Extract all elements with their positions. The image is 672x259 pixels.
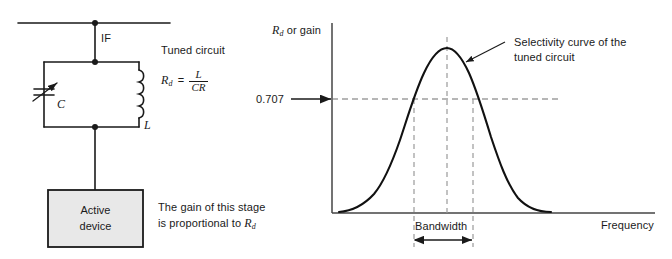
y-axis-label: Rd or gain xyxy=(272,22,321,40)
gain-note-line2-prefix: is proportional to xyxy=(158,217,244,229)
selectivity-curve xyxy=(339,48,551,212)
if-label: IF xyxy=(101,31,111,46)
tuned-circuit-label: Tuned circuit xyxy=(161,43,225,58)
capacitor-label: C xyxy=(57,96,65,112)
x-axis-label: Frequency xyxy=(601,218,654,233)
selectivity-callout-leader xyxy=(466,42,505,62)
selectivity-curve-callout-line1: Selectivity curve of the xyxy=(514,36,626,48)
active-device-label-line1: Active xyxy=(81,204,111,216)
rd-formula-equals: = xyxy=(176,74,187,86)
inductor-coil xyxy=(139,70,144,118)
figure-root: IF Tuned circuit Rd = L CR C L Active de… xyxy=(0,0,672,259)
node-dot-tank-bottom xyxy=(92,124,98,130)
active-device-label: Active device xyxy=(48,203,143,235)
rd-formula-denominator: CR xyxy=(189,82,207,94)
node-dot-rail xyxy=(92,20,98,26)
rd-formula-lhs-subscript: d xyxy=(168,79,172,88)
half-power-tick-label: 0.707 xyxy=(256,92,284,107)
node-dot-tank-top xyxy=(92,59,98,65)
gain-note: The gain of this stage is proportional t… xyxy=(158,200,265,233)
rd-formula-fraction: L CR xyxy=(189,69,207,93)
selectivity-curve-callout-line2: tuned circuit xyxy=(514,51,575,63)
selectivity-curve-callout: Selectivity curve of the tuned circuit xyxy=(514,35,626,65)
gain-note-line2-var: R xyxy=(244,216,251,230)
rd-formula: Rd = L CR xyxy=(161,69,208,93)
bandwidth-label: Bandwidth xyxy=(415,219,467,234)
rd-formula-numerator: L xyxy=(189,69,207,82)
active-device-label-line2: device xyxy=(80,220,112,232)
capacitor-variability-arrow xyxy=(33,83,57,101)
y-axis-label-suffix: or gain xyxy=(284,24,322,36)
inductor-label: L xyxy=(144,117,151,133)
gain-note-line2-var-subscript: d xyxy=(252,222,256,231)
gain-note-line1: The gain of this stage xyxy=(158,201,265,213)
